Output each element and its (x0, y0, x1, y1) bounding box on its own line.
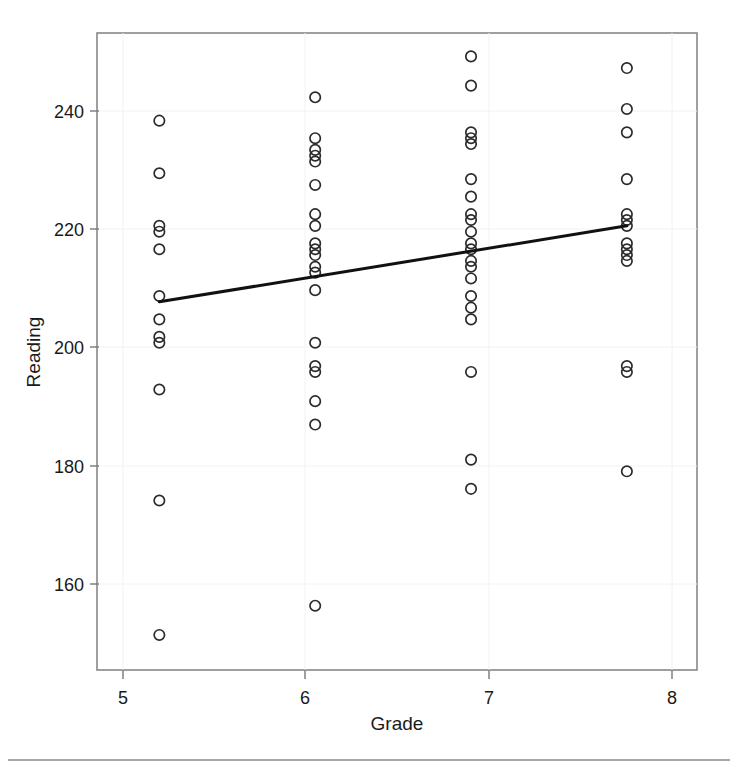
x-tick-label-8: 8 (667, 688, 677, 708)
y-tick-label-200: 200 (54, 338, 84, 358)
scatter-plot-canvas: 240 220 200 180 160 5 6 7 8 Grade Readin… (0, 0, 738, 767)
y-tick-label-220: 220 (54, 220, 84, 240)
x-tick-label-6: 6 (300, 688, 310, 708)
y-tick-label-180: 180 (54, 457, 84, 477)
x-axis-title: Grade (371, 713, 424, 734)
x-tick-label-7: 7 (484, 688, 494, 708)
y-tick-label-240: 240 (54, 102, 84, 122)
x-tick-label-5: 5 (118, 688, 128, 708)
y-axis-title: Reading (23, 317, 44, 388)
plot-panel-frame (97, 33, 697, 670)
y-tick-label-160: 160 (54, 575, 84, 595)
chart-figure: 240 220 200 180 160 5 6 7 8 Grade Readin… (0, 0, 738, 767)
